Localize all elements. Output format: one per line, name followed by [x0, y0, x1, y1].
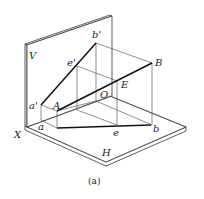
label-O: O — [100, 89, 108, 100]
label-h: H — [101, 147, 111, 158]
label-E: E — [120, 79, 129, 90]
label-a-prime: a' — [29, 100, 38, 111]
label-b-prime: b' — [92, 29, 101, 40]
figure-caption: (a) — [88, 176, 100, 186]
label-b: b — [153, 123, 159, 134]
projection-diagram: V H X b' e' a' A B E O a e b (a) — [0, 0, 204, 199]
label-A: A — [52, 100, 60, 111]
label-B: B — [154, 57, 162, 68]
label-e-prime: e' — [67, 57, 76, 68]
label-a: a — [38, 121, 44, 132]
label-e: e — [113, 127, 119, 138]
label-x: X — [13, 129, 22, 140]
